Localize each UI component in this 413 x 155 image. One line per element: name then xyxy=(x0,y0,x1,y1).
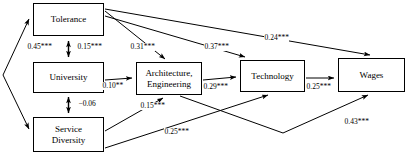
node-service-diversity-label: Service Diversity xyxy=(50,124,88,145)
edge-label-tolerance-university: 0.45*** xyxy=(27,43,52,51)
node-wages[interactable]: Wages xyxy=(338,58,405,92)
edge-label-architecture-wages: 0.43*** xyxy=(344,118,369,126)
edge-label-service-architecture: 0.15*** xyxy=(140,102,165,110)
edge-label-technology-wages: 0.25*** xyxy=(306,83,331,91)
edge-label-university-architecture: 0.10** xyxy=(102,82,124,90)
edge-label-service-technology: 0.25*** xyxy=(164,128,189,136)
node-technology-label: Technology xyxy=(249,71,295,82)
disturbance-arrow-service xyxy=(3,75,29,129)
node-tolerance[interactable]: Tolerance xyxy=(33,3,104,36)
disturbance-arrow-group xyxy=(3,19,29,129)
node-university[interactable]: University xyxy=(33,62,104,93)
edge-architecture-technology xyxy=(203,77,236,80)
edge-label-architecture-technology: 0.29*** xyxy=(203,83,228,91)
node-architecture-engineering-label: Architecture, Engineering xyxy=(143,68,194,89)
node-tolerance-label: Tolerance xyxy=(49,14,88,25)
node-wages-label: Wages xyxy=(358,70,386,81)
path-diagram: Tolerance University Service Diversity A… xyxy=(0,0,413,155)
node-university-label: University xyxy=(48,72,90,83)
edge-label-tolerance-architecture: 0.31*** xyxy=(130,43,155,51)
edge-university-architecture xyxy=(105,78,132,80)
edge-service-technology xyxy=(105,95,268,148)
edge-label-university-service: −0.06 xyxy=(78,100,96,108)
edge-label-tolerance-wages: 0.24*** xyxy=(264,34,289,42)
node-technology[interactable]: Technology xyxy=(240,60,305,92)
node-architecture-engineering[interactable]: Architecture, Engineering xyxy=(136,62,202,95)
edge-label-tolerance-university-2: 0.15*** xyxy=(77,43,102,51)
edge-label-tolerance-technology: 0.37*** xyxy=(204,43,229,51)
disturbance-arrow-tolerance xyxy=(3,19,29,75)
node-service-diversity[interactable]: Service Diversity xyxy=(33,117,104,152)
